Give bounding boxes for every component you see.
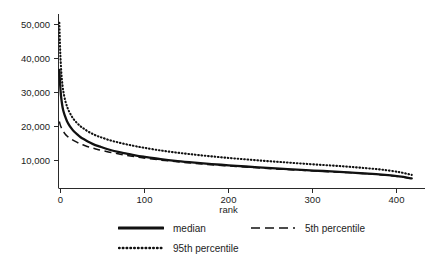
legend-swatch-dashed-icon bbox=[250, 222, 296, 234]
legend-swatch-dotted-icon bbox=[118, 242, 164, 254]
legend-entry-95th-percentile: 95th percentile bbox=[118, 238, 250, 258]
series-line-95th-percentile bbox=[59, 23, 411, 175]
series-line-median bbox=[59, 70, 411, 179]
chart-figure: 50,000 40,000 30,000 20,000 10,000 0 100… bbox=[0, 0, 433, 269]
legend-row-1: median 5th percentile bbox=[0, 218, 433, 238]
legend-row-2: 95th percentile bbox=[0, 238, 433, 258]
legend-entry-median: median bbox=[118, 218, 250, 238]
x-tick-label-100: 100 bbox=[137, 194, 153, 205]
y-tick-label-30000: 30,000 bbox=[21, 87, 50, 98]
y-tick-label-20000: 20,000 bbox=[21, 121, 50, 132]
x-tick-label-300: 300 bbox=[305, 194, 321, 205]
chart-legend: median 5th percentile 95th percentile bbox=[0, 218, 433, 266]
y-tick-label-10000: 10,000 bbox=[21, 155, 50, 166]
plot-area: 50,000 40,000 30,000 20,000 10,000 0 100… bbox=[0, 0, 433, 215]
legend-label-95th-percentile: 95th percentile bbox=[173, 243, 239, 254]
y-tick-label-50000: 50,000 bbox=[21, 19, 50, 30]
x-tick-label-0: 0 bbox=[58, 194, 63, 205]
legend-swatch-solid-icon bbox=[118, 222, 164, 234]
legend-entry-5th-percentile: 5th percentile bbox=[250, 218, 410, 238]
legend-label-5th-percentile: 5th percentile bbox=[305, 223, 365, 234]
x-tick-label-400: 400 bbox=[389, 194, 405, 205]
x-axis-title: rank bbox=[219, 204, 238, 215]
y-tick-label-40000: 40,000 bbox=[21, 53, 50, 64]
y-axis-group: 50,000 40,000 30,000 20,000 10,000 bbox=[21, 14, 59, 188]
y-tick-marks bbox=[54, 25, 59, 161]
chart-canvas: 50,000 40,000 30,000 20,000 10,000 0 100… bbox=[0, 0, 433, 215]
x-tick-marks bbox=[61, 189, 397, 194]
x-axis-group: 0 100 200 300 400 rank bbox=[58, 189, 425, 216]
legend-label-median: median bbox=[173, 223, 206, 234]
series-group bbox=[59, 23, 411, 179]
